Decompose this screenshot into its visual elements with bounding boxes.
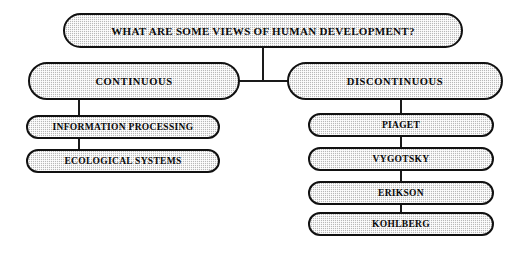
node-kohlberg: KOHLBERG [308,212,494,236]
node-erikson: ERIKSON [308,181,494,205]
node-information-processing: INFORMATION PROCESSING [26,115,220,139]
node-piaget: PIAGET [308,113,494,137]
node-discontinuous: DISCONTINUOUS [287,62,503,100]
node-vygotsky: VYGOTSKY [308,147,494,171]
node-root-question: WHAT ARE SOME VIEWS OF HUMAN DEVELOPMENT… [63,13,463,48]
node-ecological-systems: ECOLOGICAL SYSTEMS [26,149,220,173]
node-continuous: CONTINUOUS [28,62,240,100]
connector-root-to-split [262,47,264,82]
concept-map-diagram: WHAT ARE SOME VIEWS OF HUMAN DEVELOPMENT… [0,0,523,255]
